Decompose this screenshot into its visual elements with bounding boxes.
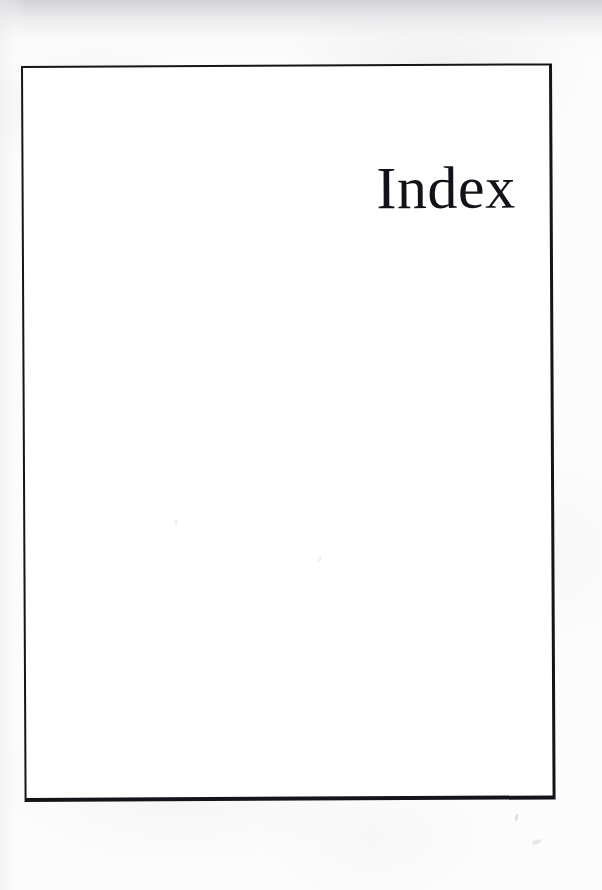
scan-shadow-top-edge xyxy=(0,0,602,58)
border-rule-rectangle: Index xyxy=(21,63,556,802)
frame-content-area: Index xyxy=(23,65,553,798)
scan-speck xyxy=(514,814,518,821)
page-title: Index xyxy=(57,158,515,220)
scanned-page: Index xyxy=(0,0,602,890)
page-border-frame: Index xyxy=(21,63,556,802)
scan-speck xyxy=(532,839,542,846)
